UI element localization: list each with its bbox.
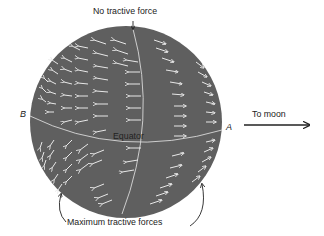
label-equator: Equator	[113, 132, 144, 141]
label-point-a: A	[226, 123, 232, 132]
label-point-b: B	[20, 110, 26, 119]
label-no-tractive-force: No tractive force	[93, 7, 157, 16]
bottom-left-pointer-arrow	[59, 194, 66, 222]
label-maximum-tractive-forces: Maximum tractive forces	[67, 218, 162, 227]
label-to-moon: To moon	[252, 110, 286, 119]
